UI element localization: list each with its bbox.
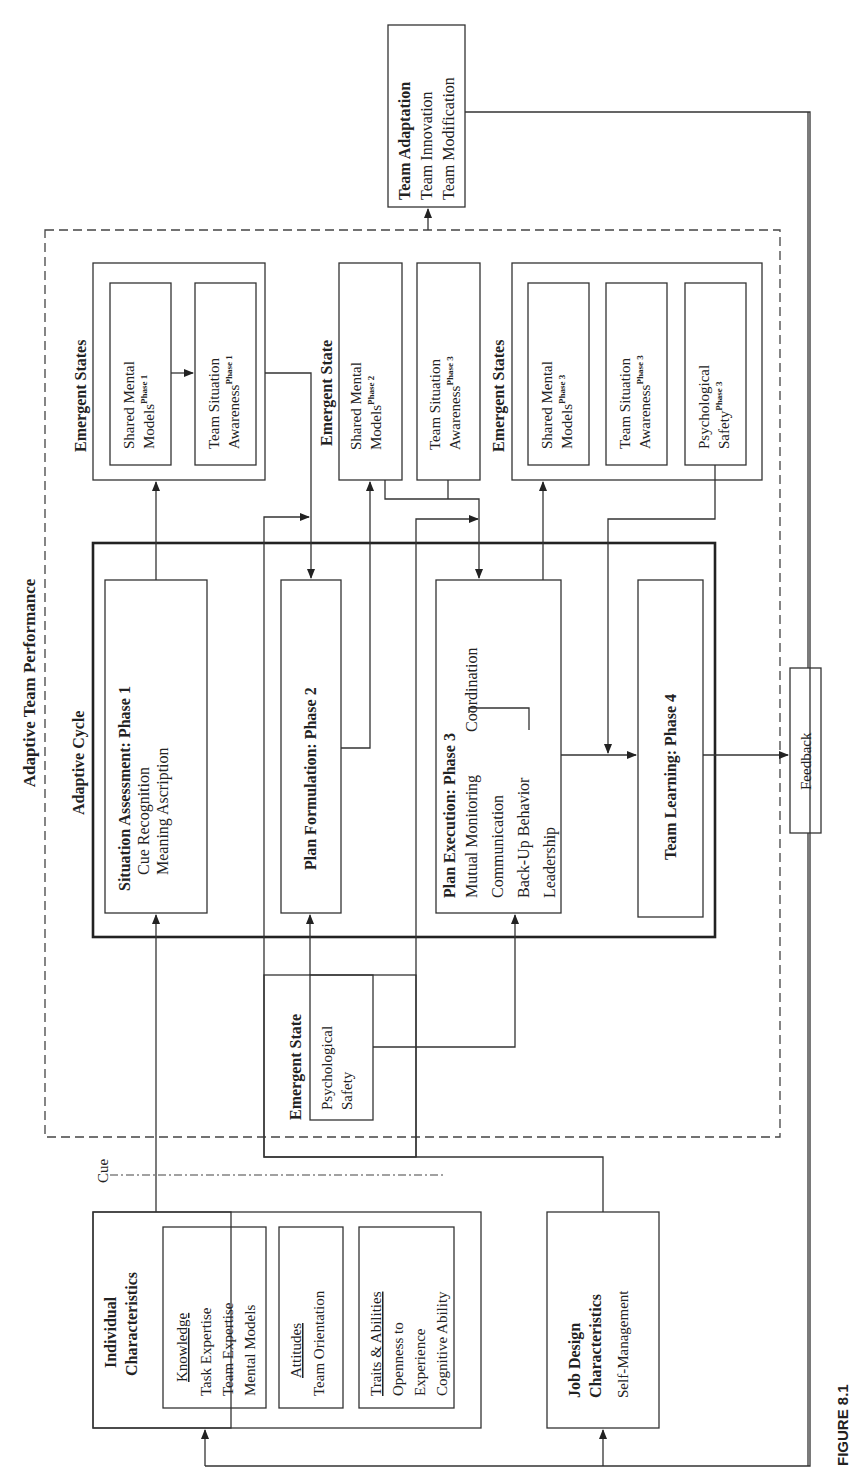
smm2-text: Shared Mental ModelsPhase 2 [348, 362, 384, 450]
svg-text:Adaptive Team Performance: Adaptive Team Performance [20, 578, 39, 787]
svg-text:Knowledge: Knowledge [174, 1313, 190, 1382]
svg-text:SafetyPhase 3: SafetyPhase 3 [714, 381, 732, 449]
svg-text:Mutual Monitoring: Mutual Monitoring [463, 775, 481, 898]
svg-text:Emergent States: Emergent States [490, 340, 508, 452]
svg-text:Cognitive Ability: Cognitive Ability [434, 1291, 450, 1396]
svg-text:Shared Mental: Shared Mental [539, 361, 555, 449]
svg-text:Task Expertise: Task Expertise [198, 1307, 214, 1396]
svg-text:Traits & Abilities: Traits & Abilities [368, 1291, 384, 1396]
svg-text:Team Situation: Team Situation [206, 357, 222, 449]
svg-text:Back-Up Behavior: Back-Up Behavior [515, 777, 533, 898]
svg-text:Plan Execution: Phase 3: Plan Execution: Phase 3 [441, 733, 458, 898]
individual-title: Individual Characteristics [102, 1272, 140, 1376]
svg-text:Emergent State: Emergent State [287, 1014, 305, 1120]
ps-to-plan-execution [373, 915, 515, 1047]
svg-text:Feedback: Feedback [798, 732, 814, 790]
svg-text:Leadership: Leadership [541, 827, 559, 898]
svg-text:Team Orientation: Team Orientation [311, 1290, 327, 1396]
svg-text:FIGURE 8.1: FIGURE 8.1 [834, 1384, 851, 1466]
svg-text:Plan Formulation: Phase 2: Plan Formulation: Phase 2 [302, 687, 319, 870]
svg-text:Individual: Individual [102, 1296, 119, 1368]
es1-title: Emergent States [72, 340, 90, 452]
svg-text:Job Design: Job Design [566, 1323, 584, 1398]
svg-text:Coordination: Coordination [463, 648, 480, 732]
svg-text:ModelsPhase 1: ModelsPhase 1 [139, 374, 157, 449]
team-adaptation-loop-line [205, 112, 810, 1466]
ps3-text: Psychological SafetyPhase 3 [696, 365, 732, 449]
svg-text:Communication: Communication [489, 795, 506, 898]
es-psych-text: Psychological Safety [319, 1026, 355, 1110]
phase1-text: Situation Assessment: Phase 1 Cue Recogn… [116, 686, 172, 891]
adaptive-team-performance-boundary [45, 230, 780, 1137]
attitudes-text: Attitudes Team Orientation [288, 1290, 327, 1396]
tsa3-text: Team Situation AwarenessPhase 3 [427, 356, 463, 450]
svg-text:Team Expertise: Team Expertise [220, 1302, 236, 1396]
svg-text:Cue: Cue [95, 1158, 111, 1183]
svg-text:ModelsPhase 3: ModelsPhase 3 [557, 374, 575, 449]
adaptive-cycle-box [93, 543, 715, 937]
svg-text:Shared Mental: Shared Mental [348, 362, 364, 450]
svg-text:Safety: Safety [339, 1071, 355, 1110]
svg-text:Characteristics: Characteristics [587, 1294, 604, 1398]
outer-title: Adaptive Team Performance [20, 578, 39, 787]
svg-text:Cue Recognition: Cue Recognition [135, 767, 153, 875]
svg-text:Openness to: Openness to [390, 1322, 406, 1396]
svg-text:Team Modification: Team Modification [440, 77, 457, 200]
svg-text:Emergent States: Emergent States [72, 340, 90, 452]
es2-to-plan-execution [385, 480, 479, 578]
svg-text:Team Learning: Phase 4: Team Learning: Phase 4 [662, 694, 680, 860]
svg-text:Emergent State: Emergent State [318, 340, 336, 446]
es-psych-title: Emergent State [287, 1014, 305, 1120]
phase2-text: Plan Formulation: Phase 2 [302, 687, 319, 870]
es3-title: Emergent States [490, 340, 508, 452]
es2-title: Emergent State [318, 340, 336, 446]
svg-text:Situation Assessment: Phase 1: Situation Assessment: Phase 1 [116, 686, 133, 891]
knowledge-text: Knowledge Task Expertise Team Expertise … [174, 1302, 258, 1396]
svg-text:Meaning Ascription: Meaning Ascription [154, 747, 172, 875]
svg-text:Psychological: Psychological [319, 1026, 335, 1110]
svg-text:AwarenessPhase 3: AwarenessPhase 3 [635, 355, 653, 449]
tsa1-text: Team Situation AwarenessPhase 1 [206, 355, 242, 449]
svg-text:Adaptive Cycle: Adaptive Cycle [70, 711, 88, 815]
smm3-text: Shared Mental ModelsPhase 3 [539, 361, 575, 449]
svg-text:Experience: Experience [412, 1328, 428, 1396]
adaptive-cycle-title: Adaptive Cycle [70, 711, 88, 815]
plan-formulation-to-smm2 [341, 482, 370, 748]
feedback-label: Feedback [798, 732, 814, 790]
cue-label: Cue [95, 1158, 111, 1183]
traits-text: Traits & Abilities Openness to Experienc… [368, 1291, 450, 1396]
phase4-text: Team Learning: Phase 4 [662, 694, 680, 860]
team-adaptation-text: Team Adaptation Team Innovation Team Mod… [396, 77, 457, 200]
job-design-text: Job Design Characteristics Self-Manageme… [566, 1290, 631, 1398]
svg-text:AwarenessPhase 1: AwarenessPhase 1 [224, 355, 242, 449]
es1-to-plan-formulation [265, 373, 311, 578]
svg-text:Shared Mental: Shared Mental [121, 361, 137, 449]
smm1-text: Shared Mental ModelsPhase 1 [121, 361, 157, 449]
figure-label: FIGURE 8.1 [834, 1384, 851, 1466]
svg-text:Team Adaptation: Team Adaptation [396, 82, 414, 200]
phase3-text: Plan Execution: Phase 3 Mutual Monitorin… [441, 648, 559, 898]
svg-text:Self-Management: Self-Management [615, 1290, 631, 1398]
tsa3-inner-text: Team Situation AwarenessPhase 3 [617, 355, 653, 449]
svg-text:Characteristics: Characteristics [123, 1272, 140, 1376]
svg-text:AwarenessPhase 3: AwarenessPhase 3 [445, 356, 463, 450]
svg-text:Mental Models: Mental Models [242, 1305, 258, 1396]
svg-text:Team Innovation: Team Innovation [418, 91, 435, 200]
adaptive-team-performance-diagram: Adaptive Team Performance Team Adaptatio… [0, 0, 852, 1482]
svg-text:ModelsPhase 2: ModelsPhase 2 [366, 375, 384, 450]
svg-text:Team Situation: Team Situation [617, 357, 633, 449]
svg-text:Attitudes: Attitudes [288, 1323, 304, 1378]
svg-text:Psychological: Psychological [696, 365, 712, 449]
svg-text:Team Situation: Team Situation [427, 358, 443, 450]
